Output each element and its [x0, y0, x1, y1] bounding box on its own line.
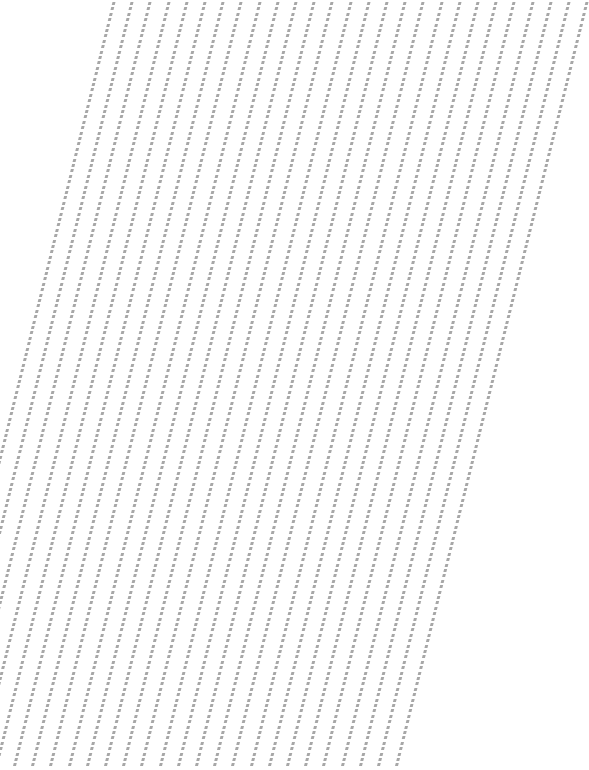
dashed-column — [158, 2, 352, 768]
dashed-column — [13, 2, 207, 768]
dashed-column — [0, 2, 188, 768]
dashed-column — [286, 2, 480, 768]
dashed-column — [67, 2, 261, 768]
dashed-column — [176, 2, 370, 768]
dashed-column — [304, 2, 498, 768]
dashed-column — [122, 2, 316, 768]
dashed-column — [358, 2, 552, 768]
dashed-column — [231, 2, 425, 768]
dashed-column — [31, 2, 225, 768]
dashed-column — [195, 2, 389, 768]
dashed-column — [340, 2, 534, 768]
dashed-column — [140, 2, 334, 768]
dashed-column — [104, 2, 298, 768]
dashed-column — [249, 2, 443, 768]
dashed-column — [213, 2, 407, 768]
dashed-column — [377, 2, 571, 768]
dashed-column — [267, 2, 461, 768]
dashed-column — [85, 2, 279, 768]
dashed-column — [395, 2, 589, 768]
dashed-column — [49, 2, 243, 768]
dashed-column — [322, 2, 516, 768]
